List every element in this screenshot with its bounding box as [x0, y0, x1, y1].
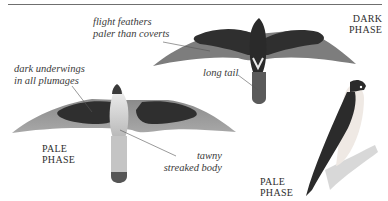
label-line: PHASE: [42, 154, 75, 165]
label-line: PALE: [260, 176, 293, 187]
dark-phase-flying-bird: [153, 18, 356, 104]
label-line: paler than coverts: [93, 28, 169, 40]
label-line: streaked body: [150, 162, 222, 174]
label-line: PHASE: [349, 24, 382, 35]
label-dark-underwings: dark underwings in all plumages: [14, 63, 85, 87]
label-pale-phase-perched: PALE PHASE: [260, 176, 293, 198]
label-line: in all plumages: [14, 75, 85, 87]
label-line: DARK: [349, 13, 382, 24]
illustration-figure: flight feathers paler than coverts dark …: [0, 0, 388, 201]
label-line: tawny: [150, 150, 222, 162]
label-line: long tail: [203, 67, 238, 79]
label-line: flight feathers: [93, 16, 169, 28]
dark-phase-tail: [252, 72, 266, 104]
label-long-tail: long tail: [203, 67, 238, 79]
pale-phase-tail-tip: [111, 172, 127, 183]
dark-phase-body: [250, 18, 267, 74]
label-tawny-body: tawny streaked body: [150, 150, 222, 174]
label-line: dark underwings: [14, 63, 85, 75]
label-pale-phase-flight: PALE PHASE: [42, 143, 75, 165]
perched-head: [350, 80, 366, 92]
label-line: PHASE: [260, 187, 293, 198]
label-flight-feathers: flight feathers paler than coverts: [93, 16, 169, 40]
pale-phase-perched-bird: [306, 80, 378, 196]
label-dark-phase: DARK PHASE: [349, 13, 382, 35]
pale-phase-head: [112, 84, 122, 94]
perched-eye: [360, 86, 362, 88]
label-line: PALE: [42, 143, 75, 154]
